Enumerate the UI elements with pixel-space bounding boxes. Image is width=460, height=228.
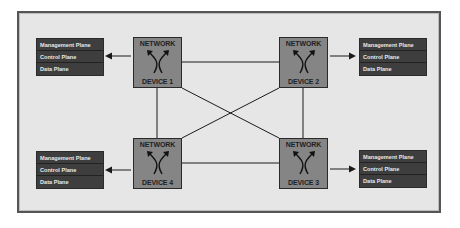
data-plane-label: Data Plane bbox=[37, 63, 103, 75]
network-device-3: NETWORK DEVICE 3 bbox=[279, 138, 328, 189]
control-plane-label: Control Plane bbox=[37, 164, 103, 176]
device-label-top: NETWORK bbox=[280, 40, 327, 47]
plane-panel-device-3: Management Plane Control Plane Data Plan… bbox=[359, 150, 427, 188]
arrowhead-left-icon bbox=[105, 167, 112, 174]
arrowhead-left-icon bbox=[105, 53, 112, 60]
router-crossed-arrows-icon bbox=[146, 49, 170, 75]
data-plane-label: Data Plane bbox=[360, 63, 426, 75]
data-plane-label: Data Plane bbox=[360, 175, 426, 187]
device-label-top: NETWORK bbox=[134, 40, 181, 47]
control-plane-label: Control Plane bbox=[360, 51, 426, 63]
management-plane-label: Management Plane bbox=[37, 39, 103, 51]
router-crossed-arrows-icon bbox=[292, 49, 316, 75]
management-plane-label: Management Plane bbox=[360, 39, 426, 51]
device-label-bottom: DEVICE 3 bbox=[280, 179, 327, 186]
control-plane-label: Control Plane bbox=[360, 163, 426, 175]
device-label-top: NETWORK bbox=[280, 141, 327, 148]
management-plane-label: Management Plane bbox=[360, 151, 426, 163]
plane-panel-device-1: Management Plane Control Plane Data Plan… bbox=[36, 38, 104, 76]
arrowhead-right-icon bbox=[349, 166, 356, 173]
data-plane-label: Data Plane bbox=[37, 176, 103, 188]
device-label-top: NETWORK bbox=[134, 141, 181, 148]
network-device-4: NETWORK DEVICE 4 bbox=[133, 138, 182, 189]
router-crossed-arrows-icon bbox=[146, 150, 170, 176]
management-plane-label: Management Plane bbox=[37, 152, 103, 164]
plane-panel-device-4: Management Plane Control Plane Data Plan… bbox=[36, 151, 104, 189]
router-crossed-arrows-icon bbox=[292, 150, 316, 176]
plane-panel-device-2: Management Plane Control Plane Data Plan… bbox=[359, 38, 427, 76]
arrowhead-right-icon bbox=[349, 53, 356, 60]
connection-lines bbox=[0, 0, 460, 228]
device-label-bottom: DEVICE 2 bbox=[280, 78, 327, 85]
control-plane-label: Control Plane bbox=[37, 51, 103, 63]
network-device-2: NETWORK DEVICE 2 bbox=[279, 37, 328, 88]
device-label-bottom: DEVICE 4 bbox=[134, 179, 181, 186]
network-device-1: NETWORK DEVICE 1 bbox=[133, 37, 182, 88]
device-label-bottom: DEVICE 1 bbox=[134, 78, 181, 85]
